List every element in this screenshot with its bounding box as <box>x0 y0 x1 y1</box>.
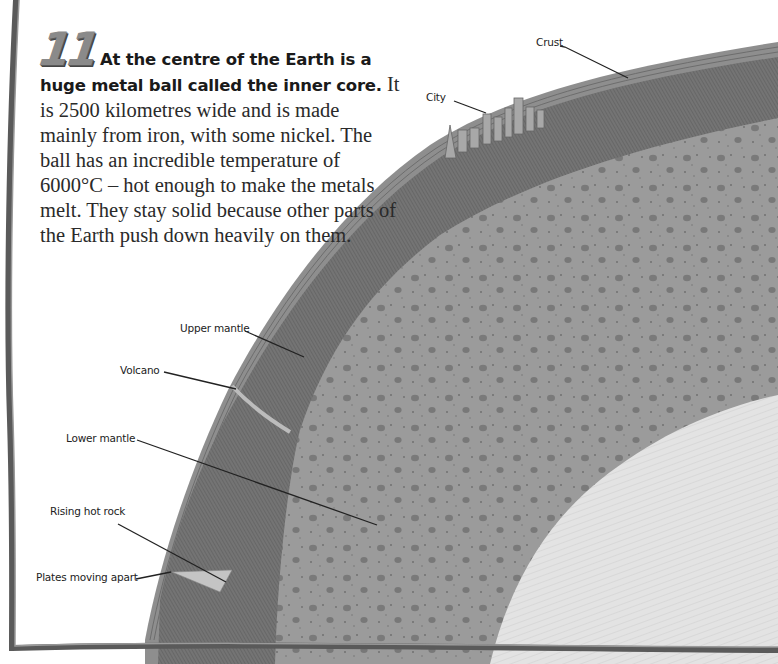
label-volcano: Volcano <box>120 364 160 376</box>
label-lower-mantle: Lower mantle <box>66 432 135 444</box>
label-city: City <box>426 91 446 103</box>
earth-layers-page: 11 At the centre of the Earth is a huge … <box>0 0 778 664</box>
label-crust: Crust <box>536 36 563 48</box>
label-upper-mantle: Upper mantle <box>180 322 250 334</box>
fact-number: 11 <box>37 26 99 72</box>
label-rising-hot-rock: Rising hot rock <box>50 505 125 517</box>
fact-block: 11 At the centre of the Earth is a huge … <box>40 26 400 248</box>
fact-body: It is 2500 kilometres wide and is made m… <box>40 73 400 246</box>
label-plates-moving-apart: Plates moving apart <box>36 571 138 583</box>
